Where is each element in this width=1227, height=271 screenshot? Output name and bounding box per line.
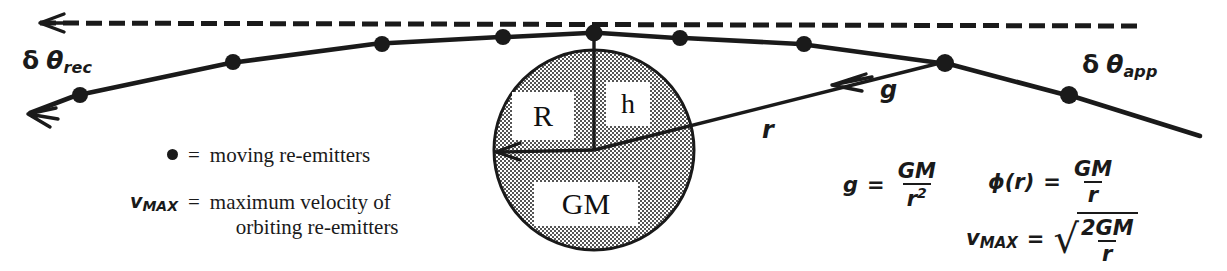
label-radius-r: r [762,118,774,142]
formula-vmax-radical: √ 2GM r [1053,212,1137,265]
legend-equals-0: = [188,143,210,168]
formula-vmax-denominator: r [1098,240,1116,265]
legend-equals-1: = [188,190,210,215]
reference-ray-arrowhead [40,14,68,32]
formula-vmax-lhs-base: v [966,226,980,250]
legend: = moving re-emitters vMAX = maximum velo… [58,143,399,240]
formula-vmax-lhs-subscript: MAX [980,234,1018,252]
formula-vmax-equals: = [1027,227,1045,251]
delta-symbol-rec: δ [22,46,39,75]
legend-row-vmax: vMAX = maximum velocity of orbiting re-e… [58,190,399,240]
formula-phi-numerator: GM [1070,158,1116,181]
legend-key-dot [58,143,188,168]
theta-symbol-app: θ [1106,50,1123,79]
sphere-label-mass: GM [534,182,638,226]
formula-phi-lhs: ϕ(r) [988,170,1034,194]
delta-symbol-app: δ [1082,50,1099,79]
formula-g-equals: = [867,173,885,197]
formula-g-lhs: g [843,173,858,197]
label-gravity-g: g [880,78,897,102]
formula-phi-denominator: r [1084,181,1102,206]
formula-g-denominator: r2 [903,183,931,210]
sphere-label-radius: R [512,92,574,140]
formula-surface-gravity: g = GM r2 [843,160,940,210]
formula-phi-equals: = [1043,170,1061,194]
angle-label-approaching: δθapp [1082,52,1158,80]
theta-subscript-rec: rec [63,58,92,77]
radical-sign-icon: √ [1053,212,1079,265]
legend-key-vmax-subscript: MAX [142,198,178,214]
formula-phi-fraction: GM r [1070,158,1116,206]
formula-g-numerator: GM [894,160,940,183]
theta-symbol-rec: θ [46,46,63,75]
legend-key-vmax-base: v [130,190,142,212]
sphere-label-height: h [606,82,650,126]
legend-value-emitter: moving re-emitters [210,143,399,168]
emitter-dot-icon [167,149,178,160]
formula-g-denominator-exponent: 2 [917,185,927,201]
formula-potential: ϕ(r) = GM r [988,158,1116,206]
legend-value-vmax-line1: maximum velocity of [210,190,391,214]
formula-vmax-fraction: 2GM r [1077,217,1138,265]
formula-escape-velocity: vMAX = √ 2GM r [966,212,1138,265]
legend-value-vmax-line2: orbiting re-emitters [210,215,399,240]
angle-label-receding: δθrec [22,48,92,76]
formula-g-fraction: GM r2 [894,160,940,210]
formula-vmax-numerator: 2GM [1077,217,1138,240]
legend-value-vmax: maximum velocity of orbiting re-emitters [210,190,399,240]
formula-vmax-radicand: 2GM r [1077,212,1138,265]
formula-g-denominator-base: r [907,187,917,211]
theta-subscript-app: app [1123,62,1157,81]
legend-row-emitter: = moving re-emitters [58,143,399,168]
formula-vmax-lhs: vMAX [966,226,1018,252]
legend-key-vmax: vMAX [58,190,188,214]
figure-canvas: δθrec δθapp R h GM r g = moving re-emitt… [0,0,1227,271]
